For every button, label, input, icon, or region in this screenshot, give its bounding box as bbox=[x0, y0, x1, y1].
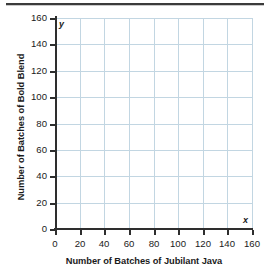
y-axis-line bbox=[55, 16, 57, 231]
y-tick-label: 100 bbox=[19, 92, 47, 102]
y-tick-mark bbox=[50, 150, 55, 152]
y-tick-label: 140 bbox=[19, 39, 47, 49]
y-tick-mark bbox=[50, 44, 55, 46]
x-axis-letter: x bbox=[243, 215, 248, 225]
gridline-vertical bbox=[252, 18, 253, 229]
y-tick-label: 160 bbox=[19, 13, 47, 23]
top-divider-shadow bbox=[6, 5, 264, 6]
y-axis-letter: y bbox=[59, 19, 64, 29]
x-tick-mark bbox=[178, 230, 180, 235]
gridline-horizontal bbox=[55, 124, 252, 125]
gridline-horizontal bbox=[55, 150, 252, 151]
x-tick-mark bbox=[203, 230, 205, 235]
y-tick-mark bbox=[50, 203, 55, 205]
x-tick-mark bbox=[80, 230, 82, 235]
x-tick-mark bbox=[104, 230, 106, 235]
gridline-horizontal bbox=[55, 44, 252, 45]
x-tick-label: 160 bbox=[235, 238, 269, 249]
y-tick-mark bbox=[50, 97, 55, 99]
x-tick-mark bbox=[154, 230, 156, 235]
y-tick-label: 40 bbox=[19, 171, 47, 181]
x-axis-title: Number of Batches of Jubilant Java bbox=[30, 256, 258, 266]
gridline-horizontal bbox=[55, 71, 252, 72]
y-tick-label: 60 bbox=[19, 145, 47, 155]
x-tick-mark bbox=[252, 230, 254, 235]
gridline-horizontal bbox=[55, 97, 252, 98]
y-tick-label: 80 bbox=[19, 119, 47, 129]
gridline-horizontal bbox=[55, 18, 252, 19]
x-tick-mark bbox=[55, 230, 57, 235]
gridline-horizontal bbox=[55, 203, 252, 204]
y-tick-mark bbox=[50, 176, 55, 178]
y-tick-mark bbox=[50, 18, 55, 20]
gridline-horizontal bbox=[55, 176, 252, 177]
y-tick-label: 120 bbox=[19, 66, 47, 76]
y-tick-mark bbox=[50, 71, 55, 73]
y-tick-mark bbox=[50, 124, 55, 126]
y-tick-mark bbox=[50, 229, 55, 231]
plot-area bbox=[55, 18, 252, 229]
chart-page: Number of Batches of Bold Blend Number o… bbox=[0, 0, 269, 275]
y-tick-label: 0 bbox=[19, 224, 47, 234]
x-tick-mark bbox=[129, 230, 131, 235]
y-tick-label: 20 bbox=[19, 198, 47, 208]
x-tick-mark bbox=[227, 230, 229, 235]
